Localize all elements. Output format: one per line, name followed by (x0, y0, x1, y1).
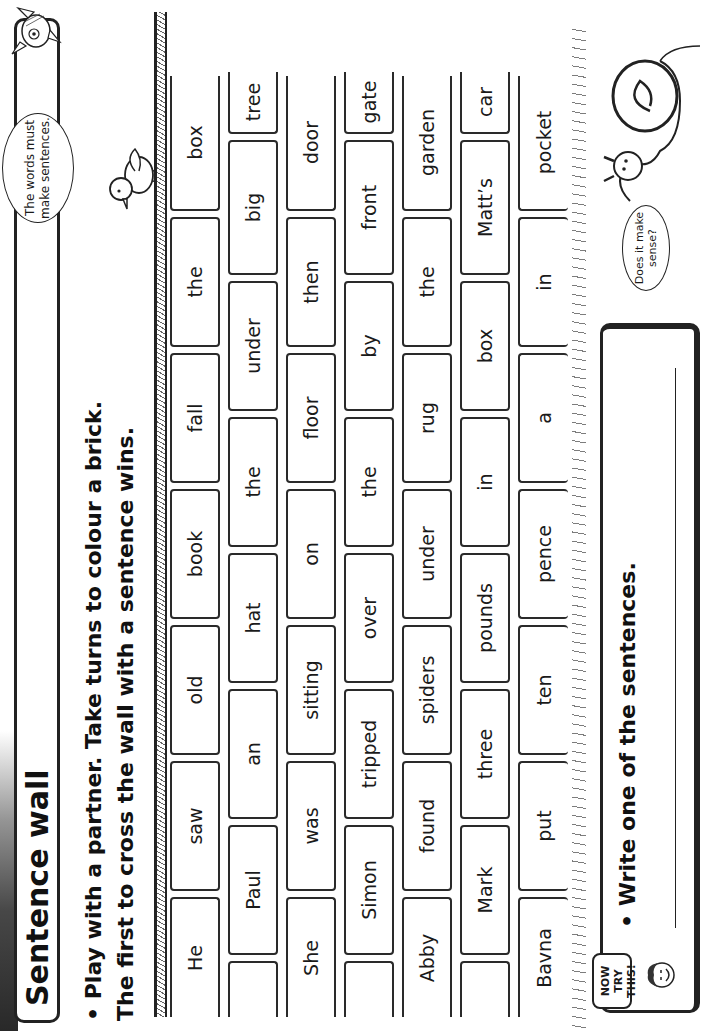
brick[interactable]: Paul (228, 825, 278, 955)
brick[interactable]: tree (228, 72, 278, 134)
brick[interactable]: ten (518, 625, 568, 755)
brick[interactable]: Mark (460, 825, 510, 955)
speech-bubble-rules: The words must make sentences. (2, 113, 74, 223)
task-prompt: • Write one of the sentences. (615, 562, 640, 928)
wall-row-5: Abby found spiders under rug the garden (402, 12, 454, 1017)
brick[interactable]: book (170, 489, 220, 619)
brick[interactable]: in (460, 417, 510, 547)
grass-decoration (572, 26, 586, 1031)
snail-illustration-icon (600, 41, 710, 211)
brick[interactable]: door (286, 76, 336, 211)
brick[interactable]: sitting (286, 625, 336, 755)
brick[interactable]: front (344, 140, 394, 275)
brick[interactable]: put (518, 761, 568, 891)
wall-row-7: Bavna put ten pence a in pocket (518, 12, 570, 1017)
brick[interactable]: spiders (402, 625, 452, 755)
brick[interactable]: floor (286, 353, 336, 483)
wall-row-1: He saw old book fall the box (170, 12, 222, 1017)
brick[interactable] (344, 961, 394, 1017)
brick[interactable]: car (460, 72, 510, 134)
brick[interactable]: saw (170, 761, 220, 891)
task-panel: • Write one of the sentences. (600, 323, 700, 1013)
brick[interactable]: pounds (460, 553, 510, 683)
child-face-icon (640, 955, 680, 995)
now-try-this-badge: NOW TRY THIS! (592, 953, 632, 1009)
brick[interactable]: gate (344, 72, 394, 134)
brick[interactable]: tripped (344, 689, 394, 819)
brick[interactable]: pocket (518, 76, 568, 211)
brick[interactable]: under (402, 489, 452, 619)
brick[interactable]: big (228, 140, 278, 275)
speech-bubble-snail: Does it make sense? (622, 205, 670, 291)
instruction-line-1: • Play with a partner. Take turns to col… (78, 401, 110, 1021)
brick[interactable]: garden (402, 76, 452, 211)
brick[interactable]: Abby (402, 897, 452, 1017)
brick[interactable] (460, 961, 510, 1017)
brick[interactable]: then (286, 217, 336, 347)
wall-top-edge (154, 12, 167, 1017)
wall-row-4: Simon tripped over the by front gate (344, 12, 396, 1017)
brick[interactable]: rug (402, 353, 452, 483)
instructions: • Play with a partner. Take turns to col… (78, 401, 142, 1021)
brick[interactable]: three (460, 689, 510, 819)
brick[interactable]: old (170, 625, 220, 755)
brick[interactable]: a (518, 353, 568, 483)
badge-line-2: THIS! (625, 955, 638, 1007)
wall-row-3: She was sitting on floor then door (286, 12, 338, 1017)
brick[interactable]: the (344, 417, 394, 547)
brick[interactable]: the (402, 217, 452, 347)
brick[interactable]: box (460, 281, 510, 411)
brick[interactable]: on (286, 489, 336, 619)
brick[interactable]: box (170, 76, 220, 211)
brick[interactable]: Simon (344, 825, 394, 955)
brick[interactable]: an (228, 689, 278, 819)
brick[interactable]: She (286, 897, 336, 1017)
brick[interactable]: the (170, 217, 220, 347)
brick[interactable]: fall (170, 353, 220, 483)
brick[interactable]: Matt’s (460, 140, 510, 275)
brick[interactable]: was (286, 761, 336, 891)
brick[interactable]: pence (518, 489, 568, 619)
brick[interactable]: in (518, 217, 568, 347)
brick[interactable]: by (344, 281, 394, 411)
brick[interactable]: He (170, 897, 220, 1017)
page-title: Sentence wall (20, 770, 55, 1006)
brick[interactable] (228, 961, 278, 1017)
brick[interactable]: over (344, 553, 394, 683)
wall-row-2: Paul an hat the under big tree (228, 12, 280, 1017)
speech-bubble-text: The words must make sentences. (23, 114, 53, 222)
brick[interactable]: the (228, 417, 278, 547)
badge-line-1: NOW TRY (599, 955, 625, 1007)
answer-line-input[interactable] (675, 368, 676, 928)
brick[interactable]: Bavna (518, 897, 568, 1017)
sentence-wall: He saw old book fall the box Paul an hat… (160, 12, 575, 1017)
brick[interactable]: hat (228, 553, 278, 683)
worksheet-page: Sentence wall The words must make senten… (0, 0, 717, 1031)
wall-row-6: Mark three pounds in box Matt’s car (460, 12, 512, 1017)
brick[interactable]: under (228, 281, 278, 411)
brick[interactable]: found (402, 761, 452, 891)
fish-illustration-icon (4, 6, 64, 56)
instruction-line-2: The first to cross the wall with a sente… (110, 401, 142, 1021)
speech-bubble-text: Does it make sense? (633, 206, 659, 290)
